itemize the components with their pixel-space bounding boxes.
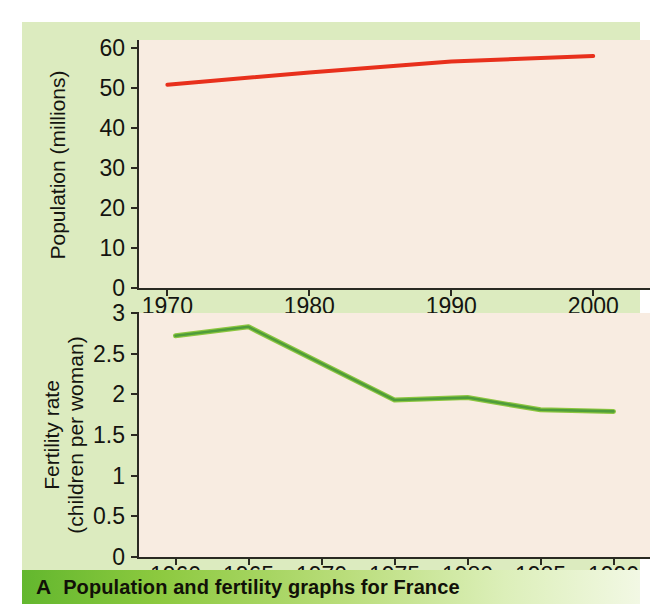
- figure-caption-bar: A Population and fertility graphs for Fr…: [22, 570, 640, 604]
- population-y-tick: [131, 47, 139, 49]
- population-line-series: [139, 40, 652, 290]
- population-y-tick-label: 10: [55, 237, 125, 260]
- population-y-tick: [131, 167, 139, 169]
- population-y-tick: [131, 247, 139, 249]
- fertility-y-tick-label: 1.5: [55, 424, 125, 447]
- fertility-y-tick: [131, 312, 139, 314]
- fertility-y-tick-label: 2.5: [55, 342, 125, 365]
- population-y-tick-label: 50: [55, 77, 125, 100]
- population-y-tick: [131, 207, 139, 209]
- fertility-chart: Fertility rate (children per woman) 00.5…: [22, 307, 640, 570]
- figure-panel: Population (millions) 010203040506019701…: [22, 22, 640, 570]
- fertility-y-tick-label: 2: [55, 383, 125, 406]
- population-chart: Population (millions) 010203040506019701…: [22, 22, 640, 307]
- population-y-tick-label: 60: [55, 37, 125, 60]
- population-y-tick: [131, 287, 139, 289]
- population-y-tick-label: 0: [55, 277, 125, 300]
- fertility-y-tick: [131, 515, 139, 517]
- population-y-tick-label: 20: [55, 197, 125, 220]
- population-plot-area: 01020304050601970198019902000(predicted): [137, 40, 650, 290]
- population-y-tick-label: 40: [55, 117, 125, 140]
- fertility-plot-area: 00.511.522.53196019651970197519801985199…: [137, 313, 650, 559]
- fertility-y-tick-label: 1: [55, 464, 125, 487]
- fertility-y-tick: [131, 556, 139, 558]
- fertility-y-tick: [131, 434, 139, 436]
- population-y-tick: [131, 87, 139, 89]
- fertility-y-tick: [131, 475, 139, 477]
- population-y-tick: [131, 127, 139, 129]
- fertility-y-tick-label: 0.5: [55, 505, 125, 528]
- population-y-tick-label: 30: [55, 157, 125, 180]
- fertility-y-tick-label: 0: [55, 546, 125, 569]
- fertility-line-series: [139, 313, 652, 559]
- fertility-y-tick: [131, 353, 139, 355]
- fertility-y-tick-label: 3: [55, 302, 125, 325]
- figure-caption-text: Population and fertility graphs for Fran…: [63, 576, 459, 599]
- figure-caption-letter: A: [36, 575, 51, 599]
- fertility-y-tick: [131, 393, 139, 395]
